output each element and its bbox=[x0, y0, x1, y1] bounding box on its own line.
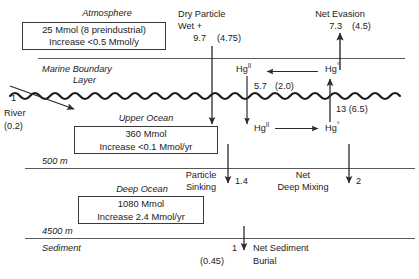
sea-surface-wave bbox=[10, 93, 400, 99]
upper-ocean-stock-value: 360 Mmol bbox=[75, 128, 217, 141]
mbl-reduction-preindustrial-value: (2.0) bbox=[275, 81, 294, 92]
depth-500m-label: 500 m bbox=[42, 156, 68, 167]
deep-ocean-reservoir-box: 1080 Mmol Increase 2.4 Mmol/yr bbox=[78, 196, 204, 224]
deposition-label-line2: Wet + bbox=[178, 21, 202, 32]
net-sediment-burial-label-line1: Net Sediment bbox=[253, 243, 309, 254]
net-evasion-preindustrial-value: (4.5) bbox=[352, 21, 371, 32]
ocean-hg0-species-label: Hg° bbox=[325, 123, 340, 134]
net-evasion-value: 7.3 bbox=[296, 21, 342, 32]
upper-ocean-heading: Upper Ocean bbox=[88, 113, 204, 124]
river-flux-value: 1 bbox=[11, 93, 16, 104]
atmosphere-heading: Atmosphere bbox=[52, 8, 162, 19]
deposition-value: 9.7 bbox=[168, 33, 206, 44]
marine-boundary-layer-label-line2: Layer bbox=[73, 75, 96, 86]
upper-ocean-reservoir-box: 360 Mmol Increase <0.1 Mmol/yr bbox=[74, 126, 218, 154]
net-deep-mixing-label-line2: Deep Mixing bbox=[264, 182, 342, 193]
atmosphere-stock-value: 25 Mmol (8 preindustrial) bbox=[23, 23, 165, 36]
net-sediment-burial-label-line2: Burial bbox=[253, 256, 277, 267]
mbl-hg2-species-label: HgII bbox=[236, 64, 251, 75]
sea-air-evasion-values: 13 (6.5) bbox=[336, 104, 368, 115]
particle-sinking-value: 1.4 bbox=[235, 176, 248, 187]
river-label: River bbox=[4, 108, 25, 119]
mbl-reduction-value: 5.7 bbox=[254, 81, 267, 92]
net-sediment-burial-value: 1 bbox=[206, 243, 237, 254]
net-evasion-label: Net Evasion bbox=[292, 9, 388, 20]
net-sediment-burial-preindustrial-value: (0.45) bbox=[200, 256, 224, 267]
atmosphere-increase-value: Increase <0.5 Mmol/y bbox=[23, 36, 165, 49]
marine-boundary-layer-label-line1: Marine Boundary bbox=[42, 64, 112, 75]
net-deep-mixing-value: 2 bbox=[356, 176, 361, 187]
deposition-label-line1: Dry Particle bbox=[178, 9, 225, 20]
deposition-preindustrial-value: (4.75) bbox=[217, 33, 241, 44]
deep-ocean-stock-value: 1080 Mmol bbox=[79, 198, 203, 211]
deep-ocean-heading: Deep Ocean bbox=[88, 184, 196, 195]
mercury-cycle-diagram: Atmosphere 25 Mmol (8 preindustrial) Inc… bbox=[0, 0, 419, 279]
depth-4500m-label: 4500 m bbox=[42, 226, 73, 237]
particle-sinking-label-line1: Particle bbox=[176, 170, 226, 181]
atmosphere-reservoir-box: 25 Mmol (8 preindustrial) Increase <0.5 … bbox=[22, 22, 166, 50]
deep-ocean-increase-value: Increase 2.4 Mmol/yr bbox=[79, 210, 203, 223]
upper-ocean-increase-value: Increase <0.1 Mmol/yr bbox=[75, 140, 217, 153]
river-flux-arrow bbox=[10, 86, 74, 109]
ocean-hg2-species-label: HgII bbox=[254, 123, 269, 134]
net-deep-mixing-label-line1: Net bbox=[270, 170, 336, 181]
river-preindustrial-value: (0.2) bbox=[4, 121, 23, 132]
mbl-hg0-species-label: Hg° bbox=[325, 64, 340, 75]
sediment-label: Sediment bbox=[42, 243, 81, 254]
